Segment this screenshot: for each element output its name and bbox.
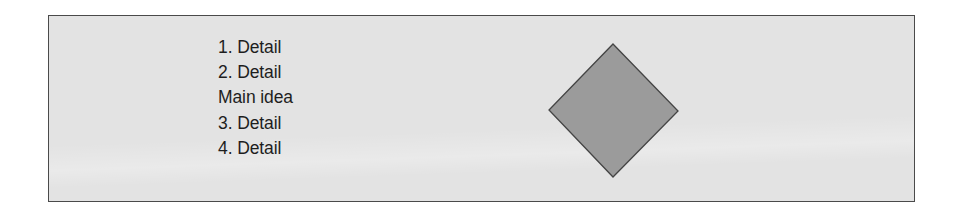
diamond-shape — [49, 16, 916, 203]
diagram-frame: 1. Detail 2. Detail Main idea 3. Detail … — [48, 15, 915, 202]
diamond-icon — [549, 44, 678, 177]
